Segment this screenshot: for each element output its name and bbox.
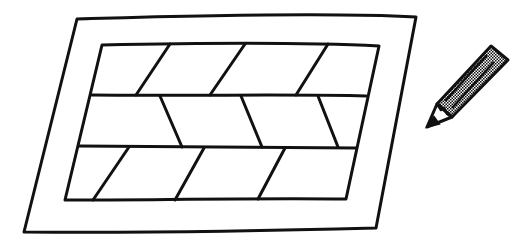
bot-slant-1 [93,147,129,200]
row-divider-1 [92,95,366,96]
bot-slant-3 [258,148,285,199]
row-divider-2 [79,146,356,148]
mid-slant-3 [318,96,338,147]
top-slant-1 [136,44,170,95]
top-slant-3 [296,44,328,95]
mid-slant-1 [160,96,182,147]
top-slant-2 [210,44,245,95]
bot-slant-2 [175,148,204,200]
mid-slant-2 [241,96,262,147]
inner-frame [65,43,379,200]
pencil-body [437,46,508,117]
pencil-icon [427,46,508,127]
illustration-canvas [0,0,528,240]
framed-tile [24,15,416,232]
